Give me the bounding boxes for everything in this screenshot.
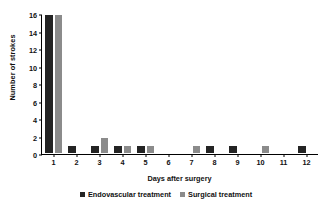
y-tick-mark [39,155,42,156]
bar-group: 12 [295,15,318,154]
bar [146,145,156,154]
x-tick-label: 6 [166,158,170,167]
x-tick-mark [214,154,215,157]
x-tick-label: 9 [235,158,239,167]
x-tick-label: 7 [189,158,193,167]
x-tick-mark [99,154,100,157]
bar-groups: 123456789101112 [42,15,318,154]
bar-group: 5 [134,15,157,154]
bar-group: 11 [272,15,295,154]
x-tick-label: 1 [51,158,55,167]
bar [228,145,238,154]
x-tick-mark [191,154,192,157]
bar [100,137,110,155]
x-tick-mark [53,154,54,157]
x-tick-label: 11 [280,158,288,167]
x-tick-label: 3 [97,158,101,167]
bar-group: 4 [111,15,134,154]
x-tick-mark [237,154,238,157]
bar [136,145,146,154]
legend-swatch-icon [180,192,185,197]
bar [54,14,64,154]
x-tick-label: 12 [302,158,310,167]
x-tick-label: 10 [256,158,264,167]
legend-item: Endovascular treatment [80,190,171,199]
x-tick-label: 4 [120,158,124,167]
bar-group: 2 [65,15,88,154]
x-tick-mark [76,154,77,157]
legend-label: Surgical treatment [188,190,252,199]
x-tick-mark [306,154,307,157]
bar-group: 7 [180,15,203,154]
x-tick-mark [283,154,284,157]
plot-area: 0246810121416 123456789101112 [41,15,318,155]
bar-group: 8 [203,15,226,154]
x-tick-mark [122,154,123,157]
bar [123,145,133,154]
bar [67,145,77,154]
bar-group: 9 [226,15,249,154]
bar [113,145,123,154]
bar [261,145,271,154]
bar-group: 10 [249,15,272,154]
stroke-bar-chart: Number of strokes 0246810121416 12345678… [0,0,332,206]
bar-group: 1 [42,15,65,154]
x-tick-label: 5 [143,158,147,167]
x-tick-mark [260,154,261,157]
bar [297,145,307,154]
bar-group: 6 [157,15,180,154]
bar-group: 3 [88,15,111,154]
bar [205,145,215,154]
bar [44,14,54,154]
bar [192,145,202,154]
chart-legend: Endovascular treatmentSurgical treatment [0,190,332,199]
bar [90,145,100,154]
x-tick-label: 8 [212,158,216,167]
y-axis-title: Number of strokes [8,22,17,114]
x-tick-mark [168,154,169,157]
x-tick-label: 2 [74,158,78,167]
legend-swatch-icon [80,192,85,197]
x-axis-title: Days after surgery [41,174,318,183]
x-tick-mark [145,154,146,157]
legend-item: Surgical treatment [180,190,252,199]
legend-label: Endovascular treatment [88,190,171,199]
